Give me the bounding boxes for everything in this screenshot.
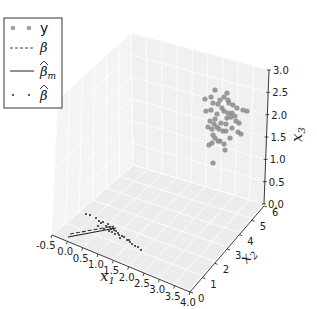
x1-tick-label: 3.0	[149, 284, 165, 295]
legend-label-beta: β	[39, 40, 48, 55]
x1-tick-label: 2.0	[119, 272, 135, 283]
beta-hat-point	[123, 236, 125, 238]
beta-hat-point	[115, 230, 117, 232]
y-point	[238, 131, 243, 136]
beta-hat-point	[105, 225, 107, 227]
beta-hat-point	[140, 249, 142, 251]
beta-hat-point	[110, 228, 112, 230]
y-point	[215, 138, 220, 143]
y-point	[226, 100, 231, 105]
y-point	[203, 108, 208, 113]
x3-tick-label: 2.0	[271, 110, 287, 121]
beta-hat-point	[126, 239, 128, 241]
x1-tick-label: 4.0	[180, 297, 196, 308]
beta-hat-point	[111, 231, 113, 233]
y-point	[244, 108, 249, 113]
y-point	[234, 105, 239, 110]
x1-tick-label: 0.5	[73, 253, 89, 264]
y-point	[206, 142, 211, 147]
beta-hat-point	[107, 223, 109, 225]
y-point	[208, 94, 213, 99]
y-point	[216, 126, 221, 131]
y-point	[210, 160, 215, 165]
beta-hat-point	[114, 233, 116, 235]
x1-tick-label: 2.5	[134, 278, 150, 289]
beta-hat-point	[112, 227, 114, 229]
legend: y β βm β	[4, 18, 62, 108]
x2-axis-label: x2	[236, 244, 260, 268]
3d-scatter-plot: -0.50.00.51.01.52.02.53.03.54.001234560.…	[0, 0, 317, 309]
y-point	[233, 118, 238, 123]
y-point	[214, 111, 219, 116]
legend-label-beta-hat: β	[39, 88, 48, 103]
beta-hat-point	[109, 226, 111, 228]
x1-tick-label: -0.5	[36, 240, 56, 251]
x3-tick-label: 0.0	[268, 199, 284, 210]
y-point	[217, 97, 222, 102]
y-point	[210, 100, 215, 105]
y-point	[222, 147, 227, 152]
beta-hat-point	[128, 239, 130, 241]
beta-hat-point	[137, 246, 139, 248]
y-point	[208, 107, 213, 112]
y-point	[218, 120, 223, 125]
beta-hat-point	[97, 225, 99, 227]
y-point	[229, 125, 234, 130]
beta-hat-point	[102, 221, 104, 223]
y-point	[232, 113, 237, 118]
y-point	[223, 128, 228, 133]
x1-tick-label: 0.0	[57, 246, 73, 257]
x3-tick-label: 1.5	[271, 132, 287, 143]
x3-tick-label: 3.0	[273, 65, 289, 76]
y-point	[227, 135, 232, 140]
x3-tick-label: 1.0	[270, 154, 286, 165]
x1-tick-label: 3.5	[165, 291, 181, 302]
legend-marker-beta-hat	[12, 94, 14, 96]
y-point	[210, 132, 215, 137]
beta-hat-point	[118, 234, 120, 236]
y-point	[221, 141, 226, 146]
beta-hat-point	[98, 220, 100, 222]
beta-hat-point	[108, 230, 110, 232]
x2-tick-label: 4	[247, 236, 253, 247]
y-point	[212, 116, 217, 121]
beta-hat-point	[134, 245, 136, 247]
y-point	[223, 121, 228, 126]
x2-tick-label: 5	[260, 221, 266, 232]
x2-tick-label: 1	[210, 279, 216, 290]
beta-hat-point	[103, 228, 105, 230]
y-point	[205, 124, 210, 129]
beta-hat-point	[131, 243, 133, 245]
beta-hat-point	[113, 229, 115, 231]
beta-hat-point	[89, 214, 91, 216]
beta-hat-point	[121, 235, 123, 237]
x2-tick-label: 0	[198, 293, 204, 304]
beta-hat-point	[129, 241, 131, 243]
x3-axis-label: x3	[288, 127, 307, 142]
x2-tick-label: 2	[223, 264, 229, 275]
y-point	[212, 87, 217, 92]
legend-label-y: y	[40, 20, 48, 36]
beta-hat-point	[100, 222, 102, 224]
y-point	[202, 96, 207, 101]
beta-hat-point	[119, 237, 121, 239]
x3-tick-label: 0.5	[269, 177, 285, 188]
x3-tick-label: 2.5	[272, 87, 288, 98]
beta-hat-point	[117, 232, 119, 234]
beta-hat-point	[85, 213, 87, 215]
beta-hat-point	[95, 217, 97, 219]
legend-marker-y	[11, 26, 16, 31]
